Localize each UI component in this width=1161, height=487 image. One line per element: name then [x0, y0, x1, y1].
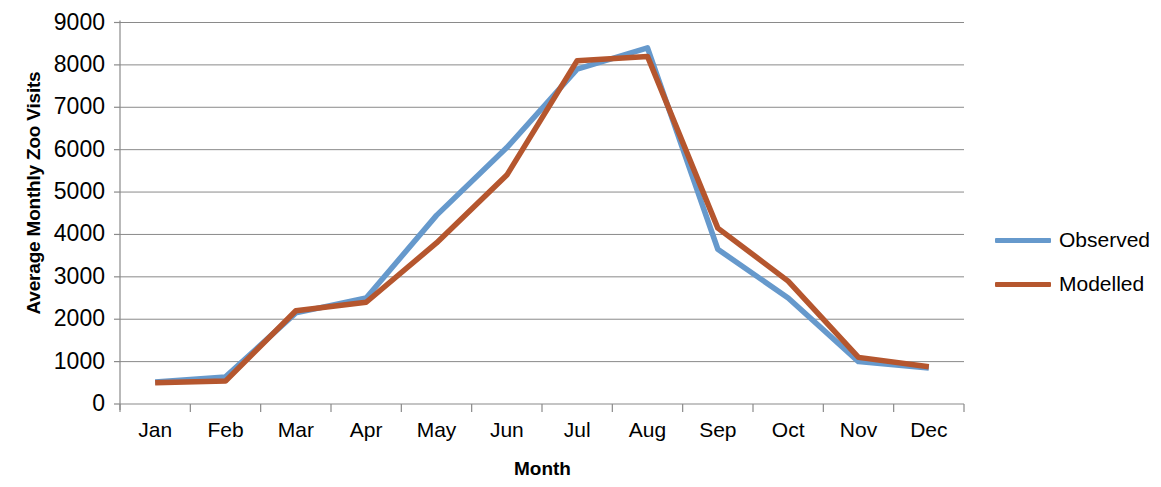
plot-area	[0, 0, 1161, 487]
x-axis-tick-label-jul: Jul	[537, 418, 617, 442]
x-axis-tick-label-aug: Aug	[608, 418, 688, 442]
legend-label-modelled: Modelled	[1059, 272, 1144, 296]
legend-item-observed: Observed	[995, 218, 1161, 262]
legend-item-modelled: Modelled	[995, 262, 1161, 306]
legend-label-observed: Observed	[1059, 228, 1150, 252]
x-axis-tick-label-sep: Sep	[678, 418, 758, 442]
chart-legend: Observed Modelled	[995, 218, 1161, 306]
x-axis-tick-label-jan: Jan	[115, 418, 195, 442]
x-axis-tick-label-dec: Dec	[889, 418, 969, 442]
x-axis-title: Month	[120, 458, 965, 480]
legend-swatch-observed	[995, 238, 1051, 243]
legend-swatch-modelled	[995, 282, 1051, 287]
x-axis-tick-label-may: May	[397, 418, 477, 442]
x-axis-tick-label-mar: Mar	[256, 418, 336, 442]
zoo-visits-line-chart: Average Monthly Zoo Visits 0100020003000…	[0, 0, 1161, 487]
x-axis-tick-label-apr: Apr	[326, 418, 406, 442]
x-axis-tick-label-feb: Feb	[186, 418, 266, 442]
x-axis-tick-label-nov: Nov	[819, 418, 899, 442]
x-axis-tick-label-jun: Jun	[467, 418, 547, 442]
x-axis-tick-label-oct: Oct	[748, 418, 828, 442]
